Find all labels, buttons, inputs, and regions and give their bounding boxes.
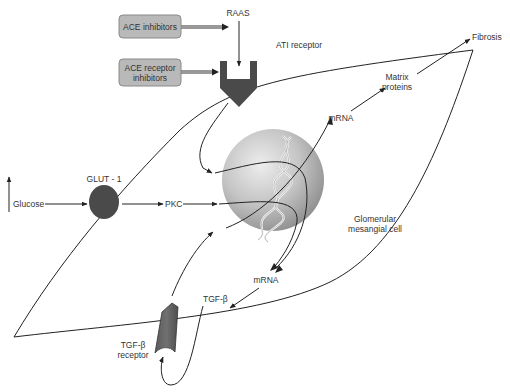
ace-inhibitors-label: ACE inhibitors — [123, 22, 177, 32]
pkc-label: PKC — [165, 199, 182, 209]
mrna-to-tgf-beta-arrow — [230, 288, 259, 308]
mrna-upper-label: mRNA — [328, 113, 353, 123]
fibrosis-label: Fibrosis — [472, 32, 502, 42]
glut1-transporter — [89, 185, 119, 219]
glomerular-cell-label-line1: Glomerular — [354, 214, 396, 224]
nucleus — [222, 129, 324, 242]
pathway-diagram: ACE inhibitors ACE receptor inhibitors R… — [0, 0, 510, 392]
matrix-proteins-label-line2: proteins — [382, 82, 412, 92]
glut1-label: GLUT - 1 — [87, 174, 122, 184]
at1-to-nucleus-arrow — [200, 103, 228, 173]
ace-receptor-inhibitors-label-line1: ACE receptor — [124, 63, 175, 73]
tgf-receptor-to-nucleus-arrow — [172, 232, 213, 296]
tgf-beta-receptor-shape — [155, 303, 178, 353]
ace-receptor-inhibitors-label-line2: inhibitors — [133, 73, 167, 83]
ace-receptor-inhibitors-arrow — [181, 69, 219, 76]
raas-label: RAAS — [226, 8, 249, 18]
ace-inhibitors-arrow — [181, 24, 229, 31]
glucose-label: Glucose — [13, 199, 44, 209]
at1-receptor-label: ATI receptor — [276, 40, 322, 50]
at1-receptor-shape — [220, 61, 257, 107]
glomerular-cell-label-line2: mesangial cell — [348, 224, 402, 234]
tgf-beta-label: TGF-β — [203, 294, 228, 304]
tgf-receptor-label-line1: TGF-β — [121, 340, 146, 350]
ace-receptor-inhibitors-box: ACE receptor inhibitors — [119, 59, 181, 86]
mrna-to-matrix-arrow — [351, 88, 385, 111]
mrna-lower-label: mRNA — [253, 275, 278, 285]
matrix-proteins-label-line1: Matrix — [385, 72, 409, 82]
ace-inhibitors-box: ACE inhibitors — [119, 15, 181, 38]
tgf-receptor-label-line2: receptor — [117, 350, 148, 360]
